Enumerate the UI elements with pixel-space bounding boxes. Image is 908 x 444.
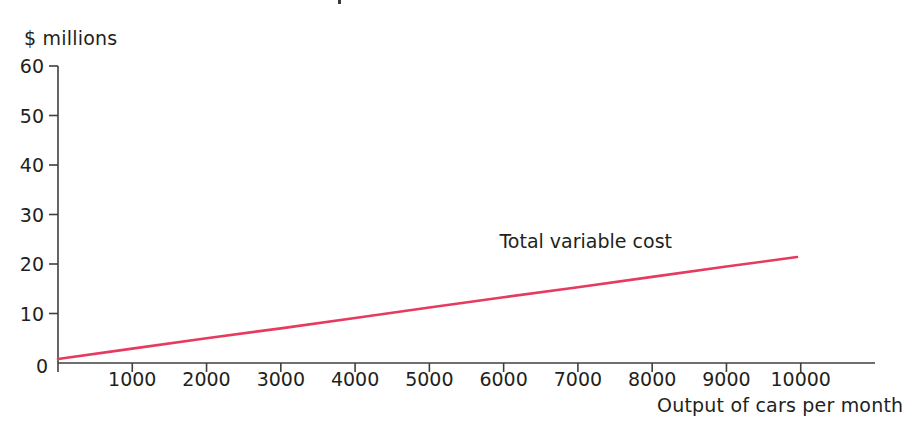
- y-tick-label-text: 40: [0, 154, 44, 176]
- chart-figure: $ millions Output of cars per month 0 To…: [0, 0, 908, 444]
- x-tick-label-text: 10000: [756, 368, 846, 390]
- y-tick-label-text: 50: [0, 105, 44, 127]
- y-tick-label-text: 60: [0, 55, 44, 77]
- series-line-total-variable-cost: [58, 257, 797, 359]
- y-tick-label-text: 10: [0, 303, 44, 325]
- y-tick-label-text: 30: [0, 204, 44, 226]
- y-tick-label-text: 20: [0, 253, 44, 275]
